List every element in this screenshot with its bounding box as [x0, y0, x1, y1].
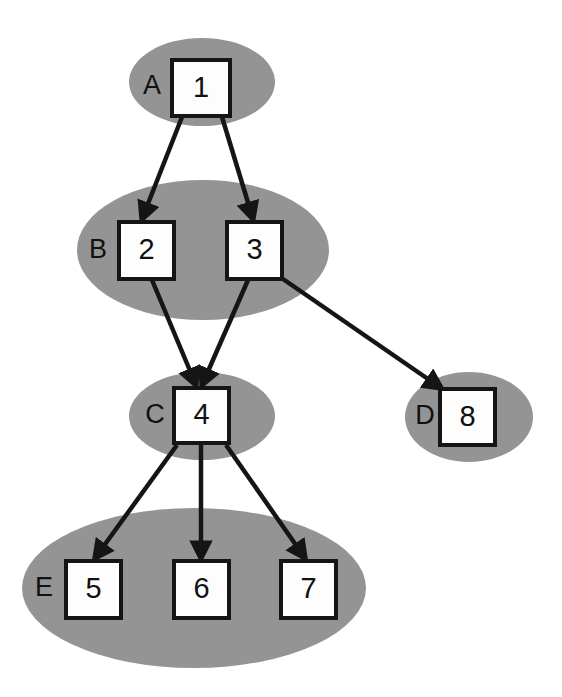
node-7[interactable]: 7 [281, 561, 336, 618]
group-label-b: B [89, 234, 107, 264]
node-1[interactable]: 1 [172, 60, 230, 116]
group-label-e: E [35, 572, 53, 602]
group-label-d: D [415, 400, 435, 430]
node-6[interactable]: 6 [174, 561, 229, 618]
node-4[interactable]: 4 [174, 388, 229, 443]
group-label-a: A [143, 70, 161, 100]
node-label-5: 5 [85, 572, 101, 604]
node-label-3: 3 [246, 233, 262, 265]
group-label-c: C [145, 399, 165, 429]
node-label-7: 7 [300, 572, 316, 604]
node-3[interactable]: 3 [227, 222, 282, 279]
edges-layer [95, 117, 441, 558]
node-2[interactable]: 2 [119, 222, 174, 279]
diagram-canvas: 12348567 ABCDE [0, 0, 562, 697]
group-ellipse-b[interactable] [77, 180, 329, 320]
node-label-6: 6 [193, 572, 209, 604]
node-label-4: 4 [193, 398, 209, 430]
edge-3-8[interactable] [283, 279, 441, 388]
node-label-1: 1 [193, 71, 209, 103]
node-label-2: 2 [138, 233, 154, 265]
diagram-svg: 12348567 ABCDE [0, 0, 562, 697]
node-8[interactable]: 8 [440, 389, 495, 445]
node-label-8: 8 [459, 400, 475, 432]
node-5[interactable]: 5 [66, 561, 121, 618]
